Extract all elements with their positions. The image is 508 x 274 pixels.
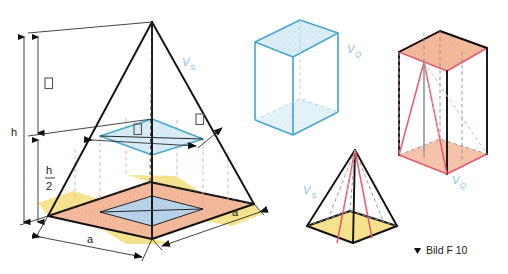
height-dimensions (24, 37, 38, 222)
vq-cube-sub: Q (355, 50, 361, 59)
label-height-half: h 2 (45, 164, 55, 192)
apex-extension-line (28, 22, 152, 33)
red-prism-top-fill (399, 31, 487, 71)
label-base-a-front: a (87, 233, 94, 245)
blue-prism-panel: V Q (255, 20, 361, 135)
label-vq-cube: V Q (347, 43, 361, 59)
caption-triangle-marker (414, 248, 421, 254)
small-pyramid-inner-grey-2 (355, 150, 383, 221)
label-base-a-right: a (232, 206, 239, 218)
main-pyramid-panel: h h 2 a (11, 22, 264, 261)
geometry-figure: h h 2 a (0, 0, 508, 274)
label-height-h: h (11, 126, 17, 138)
red-pyr-edge-1 (399, 62, 424, 155)
small-pyramid-base-fill (307, 211, 397, 243)
figure-container: h h 2 a (0, 0, 508, 274)
figure-caption: Bild F 10 (414, 244, 468, 256)
blue-prism-top-fill (255, 20, 338, 57)
midcorner-dimension (196, 114, 222, 148)
small-pyramid-panel: V S (303, 150, 397, 243)
height-half-denominator: 2 (46, 180, 52, 192)
height-half-numerator: h (46, 164, 52, 176)
caption-label: Bild F 10 (426, 244, 468, 256)
blue-prism-bottom-fill (255, 99, 338, 135)
vq-prism-sub: Q (460, 181, 466, 190)
label-height-upper-glyph (45, 78, 53, 89)
vs-small-sub: S (311, 191, 317, 200)
label-vq-prism: V Q (452, 174, 466, 190)
box-glyph-midcorner (196, 114, 204, 125)
red-prism-panel: V Q (399, 31, 487, 190)
label-vs-main: V S (182, 56, 196, 72)
box-glyph-upper (45, 78, 53, 89)
vs-main-sub: S (190, 63, 196, 72)
label-vs-small: V S (303, 184, 317, 200)
